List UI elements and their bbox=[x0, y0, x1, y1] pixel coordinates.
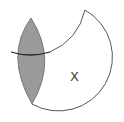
region-x-label: X bbox=[70, 69, 79, 84]
venn-diagram: X bbox=[0, 0, 124, 122]
diagram-canvas: X bbox=[0, 0, 124, 122]
